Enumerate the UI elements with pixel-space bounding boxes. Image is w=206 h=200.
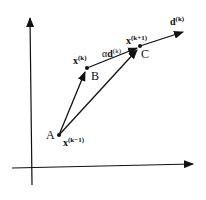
label-b: B: [91, 69, 99, 83]
diagram-canvas: A x(k−1) B x(k) C x(k+1) αd(k) d(k): [0, 0, 206, 200]
label-alpha-d-k: αd(k): [102, 47, 122, 59]
label-a: A: [46, 128, 55, 142]
point-a: [57, 133, 61, 137]
vector-a-to-c: [59, 50, 137, 135]
label-x-k-minus-1: x(k−1): [63, 136, 85, 148]
label-x-k: x(k): [73, 54, 87, 66]
point-b: [85, 66, 89, 70]
label-d-k: d(k): [170, 15, 185, 27]
y-axis: [30, 18, 32, 185]
x-axis: [12, 164, 193, 168]
vector-a-to-b: [59, 72, 85, 135]
label-c: C: [141, 47, 149, 61]
